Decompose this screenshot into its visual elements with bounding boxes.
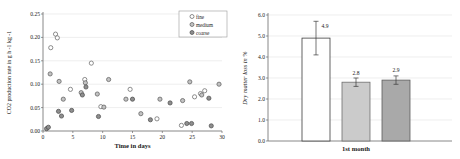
data-point-medium — [188, 80, 192, 84]
data-point-medium — [139, 112, 143, 116]
legend-marker-coarse — [190, 31, 194, 35]
y-tick-label: 5.0 — [258, 33, 265, 39]
data-point-fine — [128, 87, 132, 91]
bar-medium — [342, 82, 370, 141]
x-tick-label: 5 — [71, 134, 74, 140]
data-point-coarse — [130, 97, 134, 101]
bar-coarse — [382, 80, 410, 141]
y-axis-title: Dry matter loss in % — [241, 51, 248, 105]
y-tick-label: 3.0 — [258, 75, 265, 81]
figure-canvas: 0.000.050.100.150.200.25051015202530Time… — [0, 0, 460, 159]
data-point-coarse — [96, 114, 100, 118]
data-point-medium — [107, 77, 111, 81]
data-point-coarse — [84, 85, 88, 89]
data-point-medium — [48, 72, 52, 76]
y-tick-label: 4.0 — [258, 54, 265, 60]
bar-value-label-fine: 4.9 — [322, 23, 329, 29]
y-tick-label: 1.0 — [258, 117, 265, 123]
data-point-coarse — [209, 124, 213, 128]
y-tick-label: 6.0 — [258, 12, 265, 18]
y-axis-title: CO2 production rate in g h -1 kg -1 — [6, 31, 12, 114]
y-tick-label: 0.00 — [30, 128, 40, 134]
x-tick-label: 15 — [130, 134, 136, 140]
bar-value-label-coarse: 2.9 — [393, 67, 400, 73]
y-tick-label: 0.15 — [30, 58, 40, 64]
data-point-fine — [55, 36, 59, 40]
scatter-chart: 0.000.050.100.150.200.25051015202530Time… — [6, 11, 227, 149]
data-point-medium — [158, 97, 162, 101]
data-point-fine — [89, 61, 93, 65]
legend-label-medium: medium — [196, 22, 213, 28]
y-tick-label: 0.25 — [30, 11, 40, 17]
data-point-fine — [68, 87, 72, 91]
bar-value-label-medium: 2.8 — [353, 70, 360, 76]
data-point-fine — [49, 46, 53, 50]
data-point-coarse — [59, 114, 63, 118]
data-point-medium — [102, 105, 106, 109]
data-point-medium — [124, 97, 128, 101]
x-tick-label: 0 — [42, 134, 45, 140]
data-point-medium — [57, 79, 61, 83]
legend-label-coarse: coarse — [196, 30, 210, 36]
y-tick-label: 0.20 — [30, 34, 40, 40]
data-point-coarse — [168, 101, 172, 105]
data-point-fine — [192, 95, 196, 99]
data-point-fine — [155, 117, 159, 121]
data-point-coarse — [80, 93, 84, 97]
data-point-medium — [95, 92, 99, 96]
x-tick-label: 25 — [189, 134, 195, 140]
y-tick-label: 0.10 — [30, 81, 40, 87]
data-point-coarse — [189, 121, 193, 125]
figure: 0.000.050.100.150.200.25051015202530Time… — [0, 0, 460, 159]
data-point-coarse — [148, 118, 152, 122]
x-tick-label: 10 — [100, 134, 106, 140]
data-point-medium — [83, 81, 87, 85]
x-tick-label: 20 — [160, 134, 166, 140]
data-point-fine — [179, 123, 183, 127]
x-tick-label: 30 — [219, 134, 225, 140]
data-point-coarse — [185, 121, 189, 125]
x-axis-title: 1st month — [342, 145, 370, 152]
data-point-medium — [200, 93, 204, 97]
data-point-fine — [203, 89, 207, 93]
data-point-medium — [61, 97, 65, 101]
data-point-medium — [217, 82, 221, 86]
data-point-coarse — [56, 109, 60, 113]
legend-marker-medium — [190, 23, 194, 27]
data-point-coarse — [70, 108, 74, 112]
bar-chart: 0.01.02.03.04.05.06.0Dry matter loss in … — [241, 12, 452, 152]
legend-marker-fine — [190, 15, 194, 19]
y-tick-label: 0.05 — [30, 105, 40, 111]
data-point-coarse — [207, 96, 211, 100]
data-point-coarse — [46, 125, 50, 129]
x-axis-title: Time in days — [114, 142, 151, 149]
data-point-medium — [181, 98, 185, 102]
y-tick-label: 0.0 — [258, 138, 265, 144]
legend-label-fine: fine — [196, 14, 205, 20]
y-tick-label: 2.0 — [258, 96, 265, 102]
